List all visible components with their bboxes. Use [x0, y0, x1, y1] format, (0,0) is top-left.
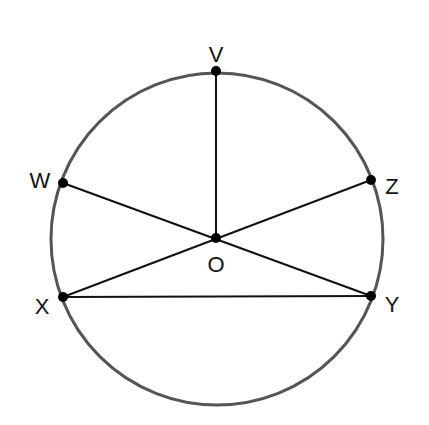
- label-w: W: [30, 168, 51, 193]
- circle-diagram: VWZOXY: [0, 0, 429, 425]
- point-o: [211, 233, 221, 243]
- label-z: Z: [385, 174, 398, 199]
- point-z: [366, 175, 376, 185]
- label-x: X: [35, 294, 50, 319]
- label-y: Y: [385, 292, 400, 317]
- segment-xy: [63, 296, 371, 297]
- point-v: [211, 66, 221, 76]
- point-w: [58, 178, 68, 188]
- point-labels: VWZOXY: [30, 42, 400, 319]
- point-x: [58, 292, 68, 302]
- label-v: V: [209, 42, 224, 67]
- label-o: O: [207, 252, 224, 277]
- point-y: [366, 291, 376, 301]
